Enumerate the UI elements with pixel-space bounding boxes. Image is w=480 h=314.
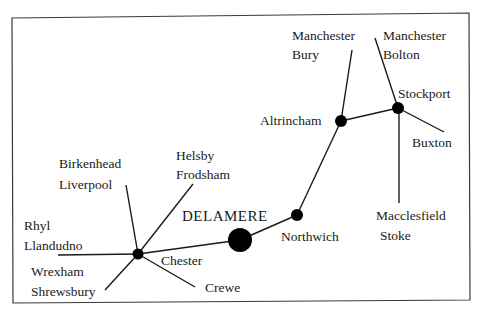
- label-crewe: Crewe: [205, 280, 240, 295]
- label-macclesfield: Macclesfield: [376, 208, 446, 223]
- label-chester: Chester: [161, 253, 203, 268]
- label-wrexham: Wrexham: [31, 264, 84, 279]
- line-altrincham-stockport: [341, 108, 398, 121]
- label-manchester-bury: Manchester: [292, 28, 355, 43]
- label-altrincham: Altrincham: [260, 113, 322, 128]
- label-northwich: Northwich: [281, 229, 339, 244]
- line-birkenhead-chester: [126, 185, 138, 254]
- label-liverpool: Liverpool: [59, 177, 112, 192]
- line-altrincham-bury: [341, 50, 352, 121]
- label-frodsham: Frodsham: [176, 167, 230, 182]
- node-chester: [133, 249, 144, 260]
- line-shrewsbury-chester: [105, 254, 138, 290]
- line-rhyl-chester: [58, 254, 138, 255]
- label-rhyl: Rhyl: [24, 218, 51, 233]
- label-helsby: Helsby: [176, 148, 214, 163]
- node-northwich: [291, 209, 303, 221]
- label-stoke: Stoke: [380, 228, 411, 243]
- node-altrincham: [335, 115, 347, 127]
- label-bury: Bury: [292, 47, 319, 62]
- label-delamere: DELAMERE: [182, 208, 268, 224]
- label-stockport: Stockport: [398, 86, 451, 101]
- label-shrewsbury: Shrewsbury: [31, 284, 96, 299]
- node-stockport: [392, 102, 404, 114]
- label-manchester-bolton: Manchester: [383, 28, 446, 43]
- node-delamere: [228, 228, 252, 252]
- label-birkenhead: Birkenhead: [59, 156, 121, 171]
- line-chester-delamere: [138, 240, 240, 254]
- route-diagram: Birkenhead Liverpool Helsby Frodsham Rhy…: [0, 0, 480, 314]
- label-buxton: Buxton: [412, 135, 452, 150]
- line-stockport-buxton: [398, 108, 444, 132]
- label-llandudno: Llandudno: [24, 238, 83, 253]
- line-northwich-altrincham: [297, 121, 341, 215]
- label-bolton: Bolton: [383, 47, 420, 62]
